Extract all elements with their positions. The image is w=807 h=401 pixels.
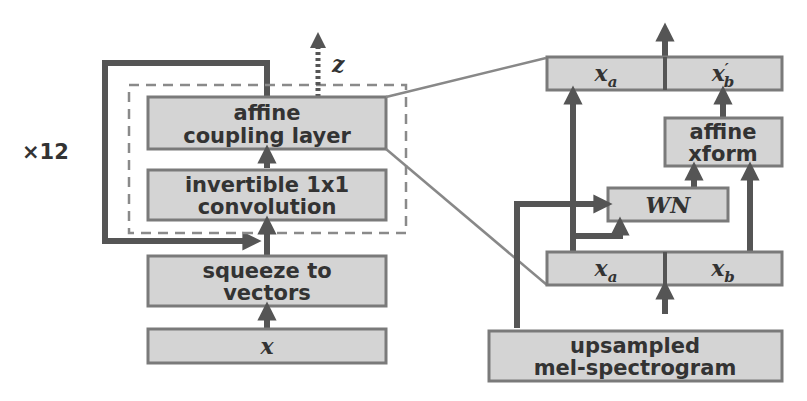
affine-coupling-layer-block: affine coupling layer xyxy=(148,97,386,149)
arrow-xa-to-wn xyxy=(573,226,620,236)
affine-coupling-label-1: affine xyxy=(234,101,301,125)
invertible-conv-label-2: convolution xyxy=(198,195,337,219)
zoom-connector-top xyxy=(386,58,546,97)
squeeze-label-2: vectors xyxy=(223,281,311,305)
output-split-block: xa x′b xyxy=(547,57,782,91)
input-split-block: xa xb xyxy=(547,252,782,286)
zoom-connector-bottom xyxy=(386,149,547,285)
squeeze-block: squeeze to vectors xyxy=(148,256,386,306)
mel-label-1: upsampled xyxy=(570,334,700,358)
wn-label: WN xyxy=(646,192,692,218)
input-x-block: x xyxy=(148,329,386,363)
squeeze-label-1: squeeze to xyxy=(202,259,331,283)
mel-label-2: mel-spectrogram xyxy=(534,356,737,380)
affine-xform-label-1: affine xyxy=(690,120,757,144)
input-x-label: x xyxy=(259,333,274,359)
repeat-count-label: ×12 xyxy=(22,140,69,164)
affine-xform-block: affine xform xyxy=(665,118,782,166)
affine-coupling-label-2: coupling layer xyxy=(183,124,351,148)
invertible-conv-label-1: invertible 1x1 xyxy=(185,173,349,197)
mel-spectrogram-block: upsampled mel-spectrogram xyxy=(489,331,782,381)
waveglow-diagram: z affine coupling layer invertible 1x1 c… xyxy=(0,0,807,401)
wn-block: WN xyxy=(608,188,728,221)
invertible-conv-block: invertible 1x1 convolution xyxy=(148,170,386,220)
z-label: z xyxy=(331,51,345,77)
affine-xform-label-2: xform xyxy=(688,142,757,166)
